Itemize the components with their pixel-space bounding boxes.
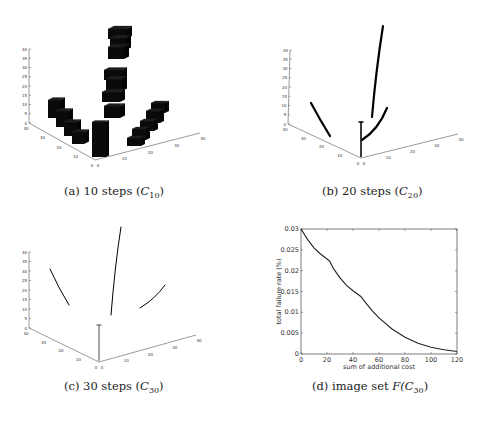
- voxel-front: [106, 79, 122, 91]
- left-floor-tick-label: 40: [282, 127, 288, 132]
- y-axis-label: total failure rate (%): [275, 258, 283, 324]
- panel-a-plot: 0510152025303540403020100010203040: [0, 0, 240, 175]
- z-tick-label: 5: [284, 112, 287, 117]
- z-tick-label: 20: [282, 85, 288, 90]
- z-tick-label: 20: [22, 84, 28, 89]
- left-floor-tick-label: 10: [73, 154, 79, 159]
- voxel-front: [72, 132, 84, 144]
- z-tick-label: 30: [22, 65, 28, 70]
- left-floor-tick-label: 0: [357, 161, 360, 166]
- left-floor-tick-label: 40: [23, 331, 29, 336]
- z-tick-label: 15: [282, 94, 288, 99]
- right-curve: [140, 285, 165, 308]
- voxel-side: [124, 45, 129, 60]
- right-floor-tick-label: 30: [174, 143, 180, 148]
- right-floor-tick-label: 20: [148, 150, 154, 155]
- right-floor-tick-label: 0: [97, 163, 100, 168]
- z-tick-label: 20: [22, 288, 28, 293]
- panel-b-caption: (b) 20 steps (C20): [322, 184, 423, 200]
- y-tick-label: 0.005: [280, 329, 299, 337]
- z-tick-label: 5: [24, 316, 27, 321]
- left-floor-tick-label: 10: [337, 153, 343, 158]
- voxel-front: [92, 122, 106, 157]
- voxel-front: [102, 92, 120, 102]
- y-tick-label: 0.025: [280, 246, 299, 254]
- voxel-side: [84, 130, 89, 145]
- left-floor-tick-label: 10: [76, 357, 82, 362]
- z-tick-label: 35: [22, 56, 28, 61]
- left-floor-tick-label: 20: [319, 144, 325, 149]
- right-floor-tick-label: 20: [410, 149, 416, 154]
- left-floor-tick-label: 20: [56, 145, 62, 150]
- panel-a-caption: (a) 10 steps (C10): [64, 184, 164, 200]
- panel-a: 0510152025303540403020100010203040 (a) 1…: [0, 0, 240, 215]
- x-tick-label: 20: [323, 356, 331, 364]
- right-floor-tick-label: 40: [196, 338, 202, 343]
- z-tick-label: 25: [282, 75, 288, 80]
- voxel-front: [104, 106, 120, 118]
- z-tick-label: 10: [281, 103, 287, 108]
- right-floor-tick-label: 0: [363, 161, 366, 166]
- z-tick-label: 35: [283, 57, 289, 62]
- panel-c-plot: 0510152025303540403020100010203040: [0, 215, 240, 385]
- voxel-side: [165, 101, 169, 113]
- voxel-front: [108, 47, 124, 59]
- right-curve: [362, 108, 387, 140]
- center-curve: [372, 26, 383, 117]
- z-tick-label: 0: [24, 121, 27, 126]
- left-floor-tick-label: 0: [91, 163, 94, 168]
- x-tick-label: 120: [451, 356, 463, 364]
- z-tick-label: 10: [22, 307, 28, 312]
- x-tick-label: 100: [425, 356, 437, 364]
- z-tick-label: 25: [22, 74, 28, 79]
- z-tick-label: 40: [22, 47, 28, 52]
- right-floor-tick-label: 20: [148, 352, 154, 357]
- right-floor-tick-label: 10: [124, 358, 130, 363]
- left-curve: [311, 103, 330, 136]
- y-tick-label: 0.02: [285, 267, 299, 275]
- right-floor-tick-label: 40: [458, 137, 464, 142]
- z-tick-label: 0: [24, 326, 27, 331]
- z-tick-label: 25: [22, 278, 28, 283]
- y-tick-label: 0: [295, 350, 299, 358]
- z-tick-label: 40: [22, 250, 28, 255]
- voxel-side: [146, 127, 150, 140]
- left-floor-tick-label: 30: [41, 340, 47, 345]
- z-tick-label: 30: [282, 66, 288, 71]
- right-floor-tick-label: 40: [200, 136, 206, 141]
- panel-b-plot: 0510152025303540403020100010203040: [240, 0, 479, 175]
- left-floor-tick-label: 30: [40, 135, 46, 140]
- right-floor-tick-label: 30: [434, 143, 440, 148]
- y-tick-label: 0.015: [280, 288, 299, 296]
- x-tick-label: 0: [299, 356, 303, 364]
- plot-frame: [301, 229, 457, 354]
- z-tick-label: 40: [283, 48, 289, 53]
- z-tick-label: 10: [22, 102, 28, 107]
- right-floor-tick-label: 10: [122, 156, 128, 161]
- voxel-side: [160, 109, 164, 123]
- panel-d-caption: (d) image set F(C30): [312, 379, 428, 395]
- z-tick-label: 30: [22, 269, 28, 274]
- z-tick-label: 15: [22, 297, 28, 302]
- left-floor-axis: [29, 328, 99, 362]
- voxel-side: [122, 77, 127, 92]
- left-floor-tick-label: 20: [58, 348, 64, 353]
- x-axis-label: sum of additional cost: [343, 363, 416, 371]
- center-curve: [111, 227, 121, 315]
- panel-b: 0510152025303540403020100010203040 (b) 2…: [240, 0, 479, 215]
- z-tick-label: 15: [22, 93, 28, 98]
- right-floor-tick-label: 30: [172, 345, 178, 350]
- panel-d-chart: 02040608010012000.0050.010.0150.020.0250…: [240, 215, 479, 375]
- right-floor-axis: [99, 335, 196, 362]
- left-floor-tick-label: 30: [301, 136, 307, 141]
- voxel-side: [154, 119, 158, 131]
- y-tick-label: 0.03: [285, 225, 299, 233]
- panel-c-caption: (c) 30 steps (C30): [64, 379, 164, 395]
- voxel-side: [106, 121, 109, 158]
- y-tick-label: 0.01: [285, 308, 299, 316]
- panel-d: 02040608010012000.0050.010.0150.020.0250…: [240, 215, 479, 425]
- voxel-front: [127, 138, 141, 146]
- right-floor-tick-label: 10: [386, 155, 392, 160]
- z-tick-label: 35: [22, 259, 28, 264]
- z-tick-label: 5: [24, 111, 27, 116]
